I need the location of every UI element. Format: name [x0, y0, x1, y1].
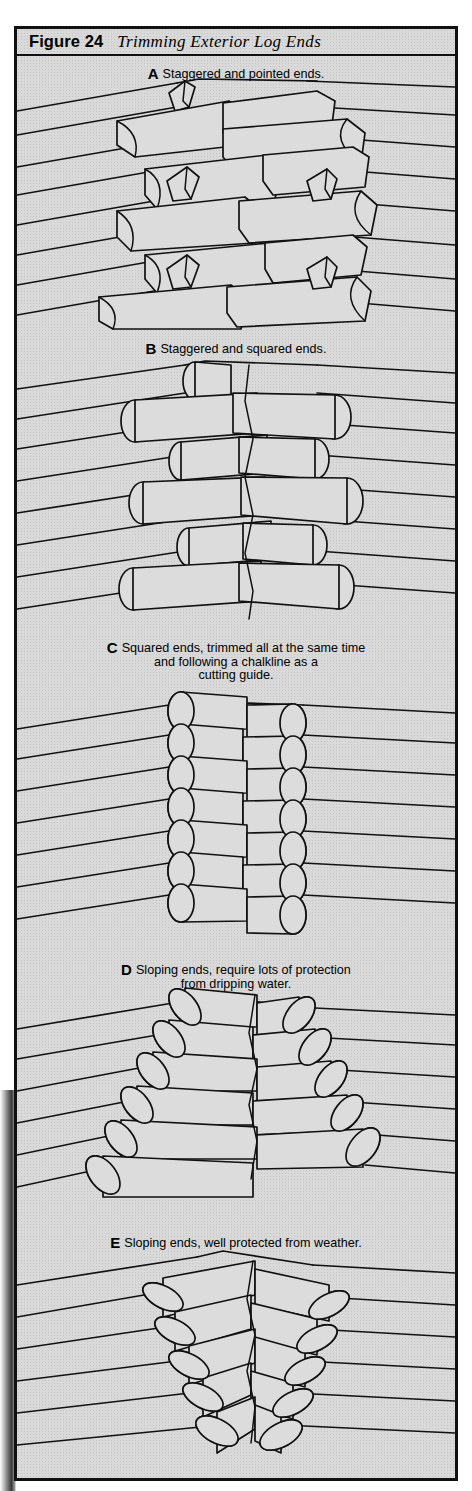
figure-title: Trimming Exterior Log Ends	[117, 32, 321, 52]
caption-d-letter: D	[121, 961, 132, 978]
caption-c-text-line2: and following a chalkline as a	[17, 656, 455, 669]
log-corner-illustrations	[17, 29, 455, 1478]
caption-c: CSquared ends, trimmed all at the same t…	[17, 639, 455, 683]
caption-d: DSloping ends, require lots of protectio…	[17, 961, 455, 991]
figure-number: Figure 24	[29, 32, 103, 51]
caption-d-text-line2: from dripping water.	[17, 978, 455, 991]
caption-a: AStaggered and pointed ends.	[17, 65, 455, 82]
caption-a-text: Staggered and pointed ends.	[163, 67, 325, 81]
caption-c-text-line1: Squared ends, trimmed all at the same ti…	[122, 641, 366, 655]
caption-e-letter: E	[110, 1234, 120, 1251]
caption-e: ESloping ends, well protected from weath…	[17, 1234, 455, 1251]
caption-b-text: Staggered and squared ends.	[160, 342, 326, 356]
caption-b-letter: B	[146, 340, 157, 357]
panel-d-illustration	[17, 983, 455, 1200]
panel-c-illustration	[17, 692, 455, 934]
panel-a-illustration	[17, 79, 455, 329]
panel-e-illustration	[17, 1251, 455, 1456]
figure-title-bar: Figure 24 Trimming Exterior Log Ends	[17, 29, 455, 56]
caption-b: BStaggered and squared ends.	[17, 340, 455, 357]
panel-b-illustration	[17, 361, 455, 619]
figure-frame: Figure 24 Trimming Exterior Log Ends	[14, 26, 458, 1481]
caption-a-letter: A	[148, 65, 159, 82]
caption-e-text: Sloping ends, well protected from weathe…	[124, 1236, 361, 1250]
caption-d-text-line1: Sloping ends, require lots of protection	[136, 963, 351, 977]
caption-c-text-line3: cutting guide.	[17, 669, 455, 682]
caption-c-letter: C	[107, 639, 118, 656]
